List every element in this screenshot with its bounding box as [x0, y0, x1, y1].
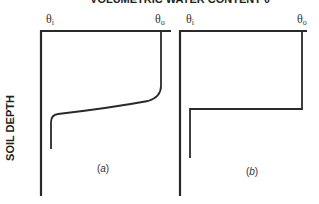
- panel-b-theta-o-label: θo: [297, 12, 307, 27]
- panel-b: θi θo (b): [180, 12, 307, 196]
- panel-b-moisture-profile: [190, 31, 302, 158]
- panel-a-moisture-profile: [51, 31, 161, 149]
- panel-b-label: (b): [246, 166, 258, 177]
- panel-b-axes: [180, 31, 307, 196]
- panel-b-theta-i-label: θi: [186, 12, 195, 27]
- diagram-canvas: VOLUMETRIC WATER CONTENT θ SOIL DEPTH θi…: [0, 0, 319, 204]
- diagram-title: VOLUMETRIC WATER CONTENT θ: [90, 0, 270, 5]
- panel-a-label: (a): [97, 163, 109, 174]
- panel-a-theta-i-label: θi: [46, 12, 55, 27]
- y-axis-label: SOIL DEPTH: [4, 95, 16, 161]
- panel-a-theta-o-label: θo: [155, 12, 165, 27]
- panel-a: θi θo (a): [41, 12, 171, 196]
